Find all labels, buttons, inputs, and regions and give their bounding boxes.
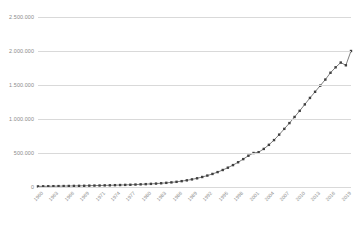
data-point-marker	[170, 181, 172, 183]
data-point-marker	[283, 128, 285, 130]
data-point-marker	[288, 122, 290, 124]
data-point-marker	[165, 182, 167, 184]
data-point-marker	[268, 144, 270, 146]
data-point-marker	[150, 183, 152, 185]
line-chart: 0500.0001.000.0001.500.0002.000.0002.500…	[0, 0, 359, 231]
data-point-marker	[278, 133, 280, 135]
data-point-marker	[345, 64, 347, 66]
x-axis-labels: 1960196319661969197119741977198019831986…	[38, 190, 351, 231]
data-point-marker	[273, 139, 275, 141]
gridline	[38, 17, 351, 18]
data-point-marker	[211, 173, 213, 175]
data-point-marker	[247, 155, 249, 157]
y-tick-label: 1.500.000	[9, 82, 34, 88]
y-tick-label: 2.500.000	[9, 14, 34, 20]
plot-area	[38, 17, 351, 187]
data-point-marker	[186, 179, 188, 181]
data-point-marker	[298, 110, 300, 112]
data-point-marker	[334, 66, 336, 68]
data-point-marker	[263, 148, 265, 150]
data-point-marker	[329, 72, 331, 74]
gridline	[38, 187, 351, 188]
y-tick-label: 2.000.000	[9, 48, 34, 54]
data-point-marker	[232, 164, 234, 166]
gridline	[38, 119, 351, 120]
data-point-marker	[114, 184, 116, 186]
gridline	[38, 153, 351, 154]
data-point-marker	[222, 169, 224, 171]
data-point-marker	[129, 184, 131, 186]
y-axis-labels: 0500.0001.000.0001.500.0002.000.0002.500…	[0, 0, 34, 231]
data-point-marker	[309, 97, 311, 99]
data-point-marker	[237, 161, 239, 163]
data-point-marker	[201, 176, 203, 178]
data-point-marker	[242, 158, 244, 160]
data-point-marker	[155, 182, 157, 184]
data-point-marker	[180, 180, 182, 182]
data-point-marker	[324, 78, 326, 80]
series-line-markers	[38, 17, 351, 187]
data-point-marker	[216, 171, 218, 173]
data-point-marker	[206, 174, 208, 176]
data-point-marker	[340, 61, 342, 63]
data-point-marker	[304, 103, 306, 105]
y-tick-label: 1.000.000	[9, 116, 34, 122]
data-point-marker	[196, 177, 198, 179]
data-point-marker	[124, 184, 126, 186]
y-tick-label: 500.000	[14, 150, 34, 156]
gridline	[38, 85, 351, 86]
data-point-marker	[139, 183, 141, 185]
data-point-marker	[160, 182, 162, 184]
data-point-marker	[227, 166, 229, 168]
y-tick-label: 0	[31, 184, 34, 190]
data-point-marker	[119, 184, 121, 186]
data-point-marker	[134, 183, 136, 185]
data-point-marker	[293, 116, 295, 118]
gridline	[38, 51, 351, 52]
data-point-marker	[175, 181, 177, 183]
data-point-marker	[314, 91, 316, 93]
data-point-marker	[145, 183, 147, 185]
data-point-marker	[191, 178, 193, 180]
